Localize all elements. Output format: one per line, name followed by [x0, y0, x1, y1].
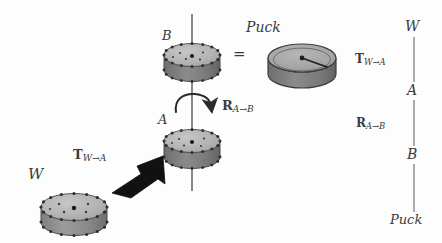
label-frame-b-top: B	[162, 29, 172, 42]
chain-node-puck: Puck	[390, 213, 422, 226]
label-frame-a-middle: A	[158, 113, 168, 126]
chain-edge-t-symbol: T	[355, 52, 364, 66]
puck-a	[163, 128, 222, 170]
chain-edge-r-subscript: A→B	[366, 121, 385, 131]
label-frame-w-left: W	[28, 167, 44, 182]
transform-r-symbol: R	[222, 98, 233, 113]
label-transform-t-left: TW→A	[73, 148, 106, 163]
puck-model	[268, 44, 336, 88]
chain-edge-r: RA→B	[356, 117, 385, 130]
chain-edge-r-symbol: R	[356, 116, 366, 130]
equals-sign: =	[233, 47, 246, 62]
rotation-arc-arrow	[176, 94, 211, 112]
puck-b	[163, 42, 222, 83]
chain-node-w: W	[405, 19, 420, 33]
block-arrow-w-to-a	[112, 156, 165, 198]
transform-r-subscript: A→B	[233, 104, 254, 114]
chain-edge-t: TW→A	[355, 53, 386, 66]
chain-node-a: A	[407, 83, 417, 97]
chain-node-b: B	[407, 147, 418, 161]
puck-w	[39, 192, 108, 237]
transform-t-symbol: T	[73, 147, 83, 162]
label-puck-title: Puck	[246, 20, 281, 34]
figure-canvas: W B A Puck = TW→A RA→B W TW→A A RA→B B P…	[0, 0, 442, 243]
chain-edge-t-subscript: W→A	[364, 57, 386, 67]
label-transform-r-middle: RA→B	[222, 99, 254, 114]
transform-t-subscript: W→A	[83, 153, 107, 163]
